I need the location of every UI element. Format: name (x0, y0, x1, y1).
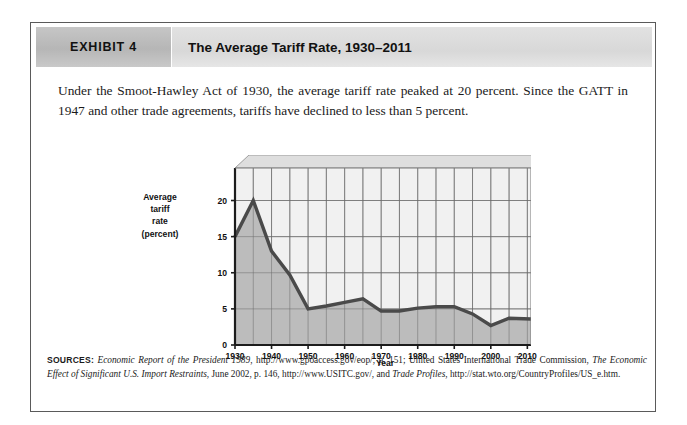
y-axis-tick-label: 20 (205, 196, 227, 206)
sources-fragment: , http://www.gpoaccess.gov/eop/, p. 151;… (250, 355, 592, 365)
y-axis-tick-label: 0 (205, 340, 227, 350)
exhibit-figure: EXHIBIT 4 The Average Tariff Rate, 1930–… (30, 22, 656, 412)
sources-fragment: Trade Profiles (392, 369, 445, 379)
page-title: The Average Tariff Rate, 1930–2011 (188, 40, 412, 55)
y-axis-tick-label: 5 (205, 304, 227, 314)
sources-fragment: , June 2002, p. 146, http://www.USITC.go… (207, 369, 392, 379)
sources-fragment: , http://stat.wto.org/CountryProfiles/US… (445, 369, 620, 379)
exhibit-title-bar: The Average Tariff Rate, 1930–2011 (172, 27, 652, 67)
y-axis-title: Average tariff rate (percent) (126, 191, 194, 240)
exhibit-number-tag: EXHIBIT 4 (36, 27, 172, 67)
y-axis-tick-label: 15 (205, 232, 227, 242)
chart-plot (221, 155, 531, 350)
sources-fragment: Economic Report of the President 1989 (98, 355, 251, 365)
exhibit-caption: Under the Smoot-Hawley Act of 1930, the … (58, 81, 628, 121)
y-axis-tick-label: 10 (205, 268, 227, 278)
y-axis-title-line-2: tariff (126, 203, 194, 215)
y-axis-title-line-4: (percent) (126, 228, 194, 240)
chart-container: Average tariff rate (percent) Year 05101… (126, 123, 566, 353)
sources-label: SOURCES: (47, 355, 94, 365)
exhibit-number-label: EXHIBIT 4 (70, 40, 137, 54)
y-axis-title-line-1: Average (126, 191, 194, 203)
exhibit-header: EXHIBIT 4 The Average Tariff Rate, 1930–… (36, 27, 652, 67)
sources-note: SOURCES: Economic Report of the Presiden… (47, 353, 647, 382)
y-axis-title-line-3: rate (126, 215, 194, 227)
